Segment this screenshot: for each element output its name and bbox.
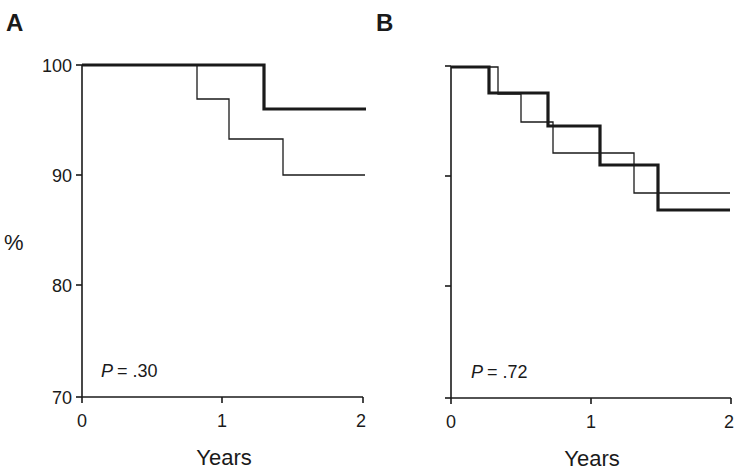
x-tick-label: 2: [724, 412, 734, 432]
figure: A 100 90 80 70 0 1 2 Years % P= .30 B: [0, 0, 742, 476]
y-tick-label: 80: [52, 276, 72, 296]
x-tick-label: 1: [217, 411, 227, 431]
y-axis-title: %: [4, 230, 24, 255]
x-tick-label: 0: [77, 411, 87, 431]
panel-letter-a: A: [6, 9, 23, 36]
survival-curve-thick-b: [451, 67, 730, 210]
p-value-a: P= .30: [101, 361, 158, 381]
y-tick-label: 100: [42, 56, 72, 76]
panel-letter-b: B: [376, 9, 393, 36]
x-tick-label: 2: [356, 411, 366, 431]
panel-b: B 0 1 2 Years P= .72: [376, 9, 734, 471]
x-axis-title-a: Years: [196, 445, 251, 470]
x-axis-title-b: Years: [564, 446, 619, 471]
y-tick-label: 70: [52, 388, 72, 408]
y-tick-label: 90: [52, 166, 72, 186]
survival-curve-thick-a: [82, 65, 366, 109]
survival-curve-thin-a: [82, 65, 365, 175]
x-tick-label: 1: [586, 412, 596, 432]
x-tick-label: 0: [446, 412, 456, 432]
p-value-b: P= .72: [471, 362, 528, 382]
survival-curve-thin-b: [451, 67, 730, 193]
panel-a: A 100 90 80 70 0 1 2 Years % P= .30: [4, 9, 366, 470]
